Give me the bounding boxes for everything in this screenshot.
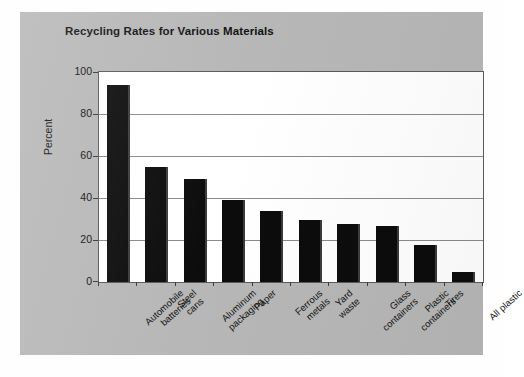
y-axis-title: Percent [42,119,54,155]
y-axis-tick-label: 0 [86,275,92,287]
y-axis-tick-label: 100 [74,65,92,77]
chart-title: Recycling Rates for Various Materials [65,25,274,37]
bar [222,200,245,282]
y-axis-tick-label: 20 [80,233,92,245]
y-axis-tick [93,240,98,241]
chart-panel: Recycling Rates for Various Materials Pe… [20,12,483,355]
y-axis-tick-label: 60 [80,149,92,161]
bar [184,179,207,282]
bar [337,224,360,282]
y-axis-tick [93,114,98,115]
bar [452,272,475,283]
bar [376,226,399,282]
x-axis-tick-labels: AutomobilebatteriesSteelcansAluminumpack… [98,286,498,356]
bar [260,211,283,282]
bar-series [99,72,483,282]
x-axis-tick-label-line: All plastic [487,288,524,323]
y-axis-tick-label: 40 [80,191,92,203]
y-axis-tick [93,72,98,73]
plot-area [98,71,484,283]
x-axis-tick-label-line: Paper [253,288,279,313]
x-axis-tick-label: Paper [253,288,279,313]
x-axis-tick-label: All plastic [487,288,524,323]
bar [107,85,130,282]
x-axis-tick-label: Ferrousmetals [293,288,331,326]
x-axis-tick-label: Yardwaste [330,288,363,320]
x-axis-tick-label: Glasscontainers [373,288,420,333]
bar [299,220,322,282]
y-axis-tick [93,198,98,199]
y-axis-tick-labels: 020406080100 [67,71,92,281]
y-axis-tick-label: 80 [80,107,92,119]
bar [145,167,168,283]
bar [414,245,437,282]
y-axis-tick [93,156,98,157]
